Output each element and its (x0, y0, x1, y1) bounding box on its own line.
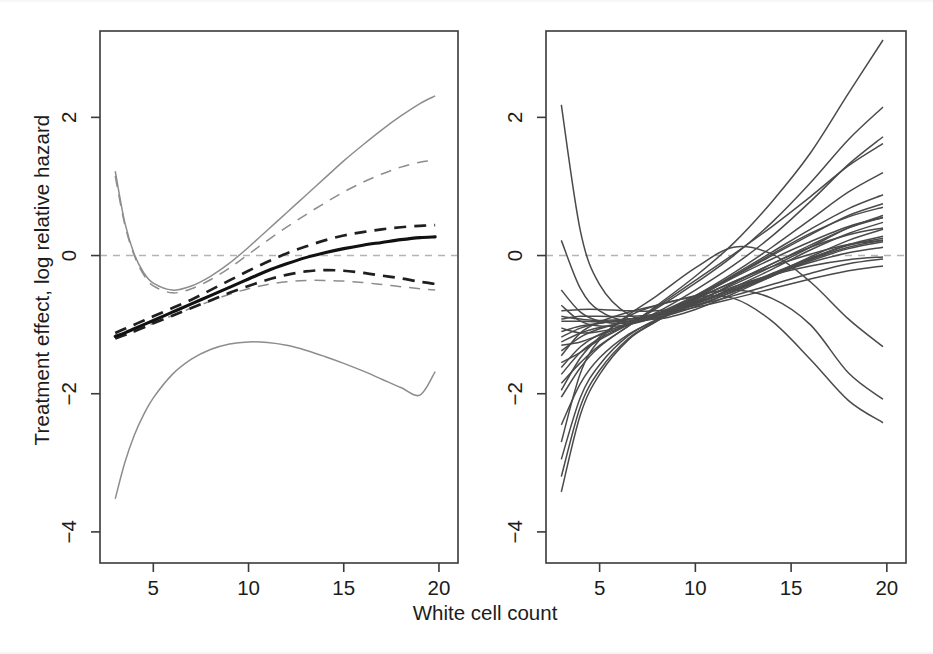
left-curve-upper-wide-band-solid-grey (115, 96, 435, 290)
right-y-tick-label--4: −4 (503, 520, 526, 543)
left-curve-lower-pointwise-ci-dashed-black (115, 270, 435, 338)
right-y-tick-label--2: −2 (503, 382, 526, 405)
bootstrap-curve-26 (561, 259, 883, 311)
right-panel: 5101520−4−202 (503, 31, 906, 599)
bootstrap-curve-19 (561, 229, 883, 322)
right-y-tick-label-0: 0 (503, 250, 526, 261)
right-x-tick-label-5: 5 (594, 576, 605, 599)
x-axis-label: White cell count (360, 601, 610, 625)
bootstrap-curve-2 (561, 228, 883, 322)
left-x-tick-label-15: 15 (332, 576, 355, 599)
left-panel: 5101520−4−202 (57, 31, 458, 599)
right-y-tick-label-2: 2 (503, 112, 526, 123)
left-x-tick-label-10: 10 (237, 576, 260, 599)
left-curve-upper-wide-band-dashed-grey (115, 160, 435, 293)
right-x-tick-label-20: 20 (875, 576, 898, 599)
left-curve-estimate-solid-black (115, 237, 435, 336)
left-x-tick-label-5: 5 (148, 576, 159, 599)
left-y-tick-label--2: −2 (57, 382, 80, 405)
y-axis-label: Treatment effect, log relative hazard (30, 70, 54, 490)
left-x-tick-label-20: 20 (428, 576, 451, 599)
left-curve-lower-wide-band-dashed-grey (115, 280, 435, 338)
left-plot-frame (100, 31, 458, 563)
left-y-tick-label--4: −4 (57, 520, 80, 543)
right-x-tick-label-10: 10 (684, 576, 707, 599)
figure-container: 5101520−4−2025101520−4−202 Treatment eff… (0, 0, 933, 654)
left-y-tick-label-0: 0 (57, 250, 80, 261)
right-x-tick-label-15: 15 (780, 576, 803, 599)
left-y-tick-label-2: 2 (57, 112, 80, 123)
bootstrap-curve-6 (561, 137, 883, 346)
plot-svg: 5101520−4−2025101520−4−202 (0, 0, 933, 654)
bootstrap-curve-11 (561, 240, 883, 476)
left-curve-lower-wide-band-solid-grey (115, 342, 435, 499)
